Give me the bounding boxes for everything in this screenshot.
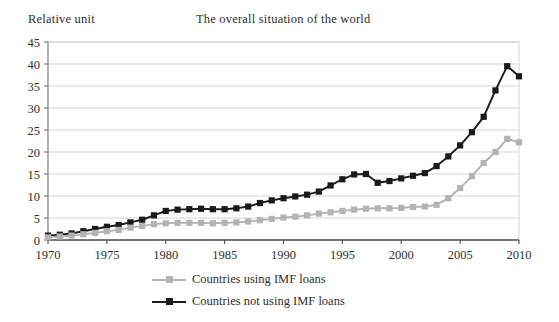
legend-label-0: Countries using IMF loans xyxy=(192,272,326,287)
series-marker xyxy=(351,207,357,213)
legend-swatch-black xyxy=(152,296,186,308)
series-marker xyxy=(210,220,216,226)
series-marker xyxy=(57,233,63,239)
series-marker xyxy=(139,223,145,229)
series-marker xyxy=(363,171,369,177)
y-tick-label: 20 xyxy=(28,146,41,160)
series-marker xyxy=(457,142,463,148)
series-marker xyxy=(457,185,463,191)
x-tick-label: 2010 xyxy=(507,248,532,262)
series-marker xyxy=(233,219,239,225)
series-marker xyxy=(410,204,416,210)
series-marker xyxy=(504,136,510,142)
series-marker xyxy=(422,170,428,176)
series-marker xyxy=(280,195,286,201)
series-marker xyxy=(422,203,428,209)
y-tick-label: 15 xyxy=(28,168,41,182)
series-marker xyxy=(163,220,169,226)
series-marker xyxy=(304,192,310,198)
series-marker xyxy=(398,205,404,211)
chart-figure: Relative unit The overall situation of t… xyxy=(0,0,559,322)
series-marker xyxy=(433,202,439,208)
x-tick-label: 1970 xyxy=(36,248,61,262)
series-marker xyxy=(210,206,216,212)
series-marker xyxy=(492,149,498,155)
series-marker xyxy=(445,195,451,201)
series-marker xyxy=(127,219,133,225)
series-marker xyxy=(339,208,345,214)
series-marker xyxy=(375,205,381,211)
legend-item-countries-not-using-imf-loans: Countries not using IMF loans xyxy=(152,294,345,309)
series-marker xyxy=(163,208,169,214)
series-marker xyxy=(127,225,133,231)
legend-label-1: Countries not using IMF loans xyxy=(192,294,345,309)
series-marker xyxy=(139,217,145,223)
y-tick-label: 5 xyxy=(34,212,40,226)
series-marker xyxy=(186,220,192,226)
series-marker xyxy=(45,234,51,240)
x-tick-label: 2005 xyxy=(448,248,473,262)
series-marker xyxy=(222,206,228,212)
y-tick-label: 45 xyxy=(28,36,41,50)
series-marker xyxy=(469,129,475,135)
series-marker xyxy=(104,228,110,234)
series-marker xyxy=(80,231,86,237)
series-marker xyxy=(516,139,522,145)
series-marker xyxy=(151,212,157,218)
series-marker xyxy=(257,217,263,223)
series-marker xyxy=(269,216,275,222)
series-marker xyxy=(151,221,157,227)
series-marker xyxy=(386,205,392,211)
x-tick-label: 1980 xyxy=(153,248,178,262)
series-marker xyxy=(222,220,228,226)
y-tick-label: 10 xyxy=(28,190,41,204)
series-marker xyxy=(375,180,381,186)
series-marker xyxy=(504,63,510,69)
series-marker xyxy=(245,218,251,224)
y-tick-label: 30 xyxy=(28,102,41,116)
series-marker xyxy=(186,206,192,212)
series-marker xyxy=(481,114,487,120)
y-tick-label: 0 xyxy=(34,234,40,248)
series-marker xyxy=(269,197,275,203)
series-marker xyxy=(174,207,180,213)
series-marker xyxy=(304,212,310,218)
series-marker xyxy=(174,220,180,226)
series-marker xyxy=(351,171,357,177)
legend-marker-black xyxy=(166,298,173,305)
y-tick-label: 25 xyxy=(28,124,41,138)
series-marker xyxy=(292,193,298,199)
series-marker xyxy=(198,220,204,226)
legend-swatch-gray xyxy=(152,274,186,286)
series-marker xyxy=(481,160,487,166)
series-marker xyxy=(386,178,392,184)
plot-background xyxy=(48,42,519,240)
series-marker xyxy=(292,214,298,220)
series-marker xyxy=(198,206,204,212)
y-tick-label: 40 xyxy=(28,58,41,72)
x-tick-label: 1985 xyxy=(212,248,237,262)
series-marker xyxy=(492,87,498,93)
series-marker xyxy=(316,211,322,217)
y-tick-label: 35 xyxy=(28,80,41,94)
series-marker xyxy=(363,206,369,212)
series-marker xyxy=(445,153,451,159)
legend-item-countries-using-imf-loans: Countries using IMF loans xyxy=(152,272,326,287)
x-tick-label: 1995 xyxy=(330,248,355,262)
series-marker xyxy=(68,233,74,239)
series-marker xyxy=(469,173,475,179)
series-marker xyxy=(410,173,416,179)
series-marker xyxy=(328,182,334,188)
series-marker xyxy=(516,73,522,79)
series-marker xyxy=(245,203,251,209)
series-marker xyxy=(316,189,322,195)
series-marker xyxy=(398,175,404,181)
series-marker xyxy=(339,176,345,182)
series-marker xyxy=(257,200,263,206)
x-tick-label: 1975 xyxy=(94,248,119,262)
x-tick-label: 1990 xyxy=(271,248,296,262)
x-tick-label: 2000 xyxy=(389,248,414,262)
series-marker xyxy=(233,205,239,211)
series-marker xyxy=(92,230,98,236)
legend-marker-gray xyxy=(166,276,173,283)
